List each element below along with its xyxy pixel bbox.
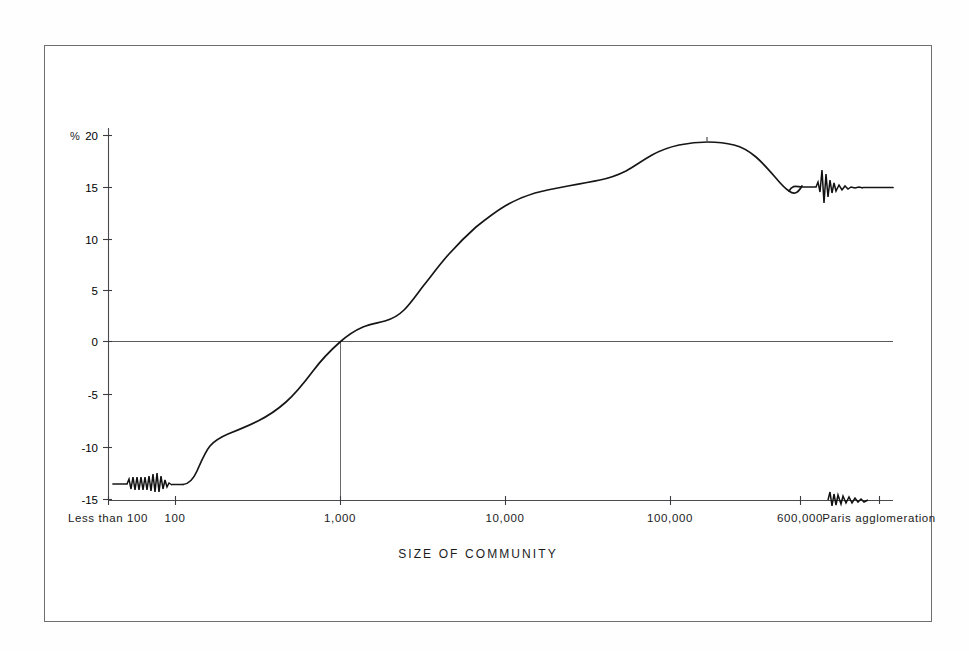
y-axis-unit-label: %	[70, 130, 80, 142]
x-axis-break-icon	[828, 492, 868, 506]
x-tick-label-600000: 600,000	[777, 512, 823, 524]
x-tick-label-lessthan100: Less than 100	[68, 512, 148, 524]
series-curve-right-break-icon	[816, 170, 863, 203]
axes-group	[109, 128, 894, 501]
x-tick-label-100000: 100,000	[647, 512, 693, 524]
series-curve-left-break-icon	[127, 473, 172, 492]
x-tick-label-10000: 10,000	[486, 512, 525, 524]
y-tick-label-15: 15	[85, 182, 98, 194]
x-tick-labels: Less than 100 100 1,000 10,000 100,000 6…	[68, 512, 936, 524]
y-tick-label-5: 5	[92, 285, 98, 297]
y-tick-label-10: 10	[85, 234, 98, 246]
x-axis-title: SIZE OF COMMUNITY	[398, 547, 558, 561]
x-tick-label-100: 100	[165, 512, 186, 524]
y-tick-label-minus15: -15	[81, 494, 98, 506]
series-curve-right-approach	[789, 186, 816, 191]
y-tick-labels: 20 15 10 5 0 -5 -10 -15	[81, 130, 98, 506]
x-tick-label-1000: 1,000	[324, 512, 356, 524]
x-tick-label-paris: Paris agglomeration	[822, 512, 936, 524]
y-tick-label-0: 0	[92, 336, 98, 348]
chart-canvas: 20 15 10 5 0 -5 -10 -15 % Less than 100 …	[0, 0, 969, 651]
y-tick-label-minus10: -10	[81, 442, 98, 454]
y-tick-group	[103, 136, 112, 500]
figure-page: 20 15 10 5 0 -5 -10 -15 % Less than 100 …	[0, 0, 969, 651]
y-tick-label-20: 20	[85, 130, 98, 142]
y-tick-label-minus5: -5	[88, 389, 98, 401]
series-curve-main	[183, 142, 802, 485]
